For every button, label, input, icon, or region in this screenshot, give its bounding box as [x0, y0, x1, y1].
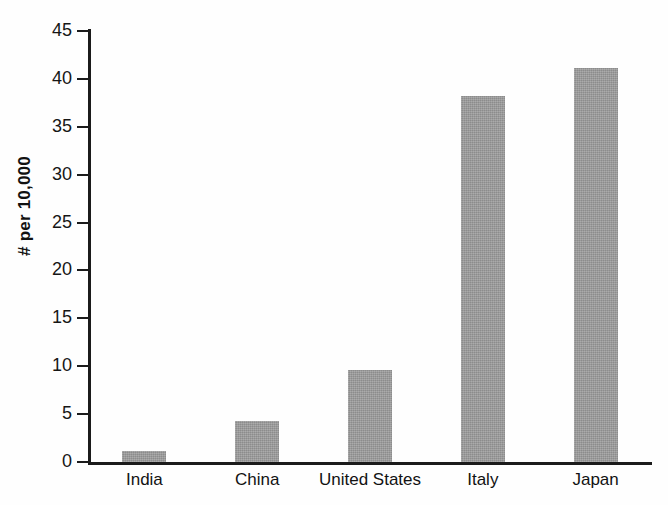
y-tick-label: 40	[28, 69, 72, 87]
y-tick-label: 20	[28, 260, 72, 278]
bar	[235, 421, 279, 462]
y-tick-mark	[77, 461, 89, 463]
bar	[348, 370, 392, 462]
y-axis-title: # per 10,000	[15, 136, 35, 276]
y-tick-label: 10	[28, 356, 72, 374]
y-tick-label: 25	[28, 213, 72, 231]
y-tick-label-wrap: 20	[20, 260, 72, 278]
y-tick-label-wrap: 0	[20, 452, 72, 470]
bar	[122, 451, 166, 462]
y-tick-label-wrap: 30	[20, 165, 72, 183]
y-tick-label-wrap: 35	[20, 117, 72, 135]
y-tick-label-wrap: 10	[20, 356, 72, 374]
y-tick-mark	[77, 269, 89, 271]
y-axis-line	[88, 29, 91, 465]
bar	[574, 68, 618, 462]
y-tick-label: 30	[28, 165, 72, 183]
y-tick-label: 15	[28, 308, 72, 326]
x-axis-line	[88, 462, 652, 465]
y-tick-label-wrap: 45	[20, 21, 72, 39]
y-tick-mark	[77, 365, 89, 367]
y-tick-label-wrap: 5	[20, 404, 72, 422]
y-tick-mark	[77, 222, 89, 224]
y-tick-label-wrap: 15	[20, 308, 72, 326]
y-tick-mark	[77, 126, 89, 128]
y-tick-mark	[77, 78, 89, 80]
y-tick-label: 35	[28, 117, 72, 135]
bar-chart: # per 10,000 051015202530354045 IndiaChi…	[0, 0, 668, 505]
y-tick-mark	[77, 317, 89, 319]
y-tick-label-wrap: 25	[20, 213, 72, 231]
y-tick-mark	[77, 174, 89, 176]
y-tick-label: 0	[28, 452, 72, 470]
y-tick-mark	[77, 413, 89, 415]
x-axis-category-label: Japan	[506, 470, 668, 490]
y-tick-label: 45	[28, 21, 72, 39]
y-tick-label: 5	[28, 404, 72, 422]
bar	[461, 96, 505, 462]
y-tick-label-wrap: 40	[20, 69, 72, 87]
y-tick-mark	[77, 30, 89, 32]
